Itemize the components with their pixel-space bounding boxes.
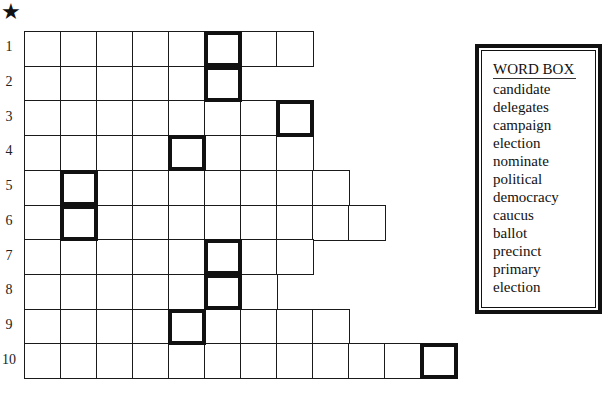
letter-cell[interactable] (24, 205, 62, 241)
word-item: democracy (493, 188, 595, 206)
highlighted-letter-cell[interactable] (60, 170, 98, 206)
letter-cell[interactable] (60, 31, 98, 67)
letter-cell[interactable] (204, 170, 242, 206)
letter-cell[interactable] (276, 239, 314, 275)
letter-cell[interactable] (132, 66, 170, 102)
letter-cell[interactable] (168, 100, 206, 136)
letter-cell[interactable] (384, 343, 422, 379)
highlighted-letter-cell[interactable] (204, 31, 242, 67)
letter-cell[interactable] (24, 66, 62, 102)
row-number: 8 (0, 282, 18, 298)
highlighted-letter-cell[interactable] (420, 343, 458, 379)
letter-cell[interactable] (132, 343, 170, 379)
letter-cell[interactable] (60, 343, 98, 379)
word-item: delegates (493, 98, 595, 116)
letter-cell[interactable] (168, 170, 206, 206)
letter-cell[interactable] (168, 274, 206, 310)
word-box-inner: WORD BOX candidate delegates campaign el… (481, 50, 596, 308)
highlighted-letter-cell[interactable] (204, 239, 242, 275)
letter-cell[interactable] (24, 170, 62, 206)
letter-cell[interactable] (60, 135, 98, 171)
letter-cell[interactable] (96, 343, 134, 379)
letter-cell[interactable] (168, 31, 206, 67)
letter-cell[interactable] (168, 66, 206, 102)
letter-cell[interactable] (96, 170, 134, 206)
letter-cell[interactable] (204, 100, 242, 136)
letter-cell[interactable] (276, 205, 314, 241)
letter-cell[interactable] (24, 135, 62, 171)
letter-cell[interactable] (348, 205, 386, 241)
letter-cell[interactable] (60, 100, 98, 136)
letter-cell[interactable] (96, 309, 134, 345)
letter-cell[interactable] (132, 135, 170, 171)
highlighted-letter-cell[interactable] (276, 100, 314, 136)
letter-cell[interactable] (132, 274, 170, 310)
letter-cell[interactable] (276, 170, 314, 206)
highlighted-letter-cell[interactable] (204, 274, 242, 310)
letter-cell[interactable] (24, 31, 62, 67)
word-item: caucus (493, 206, 595, 224)
letter-cell[interactable] (96, 66, 134, 102)
letter-cell[interactable] (60, 309, 98, 345)
letter-cell[interactable] (24, 100, 62, 136)
letter-cell[interactable] (276, 31, 314, 67)
letter-cell[interactable] (312, 170, 350, 206)
letter-cell[interactable] (312, 309, 350, 345)
row-number: 5 (0, 178, 18, 194)
letter-cell[interactable] (240, 343, 278, 379)
letter-cell[interactable] (204, 205, 242, 241)
letter-cell[interactable] (240, 170, 278, 206)
letter-cell[interactable] (132, 205, 170, 241)
row-number: 7 (0, 248, 18, 264)
letter-cell[interactable] (132, 239, 170, 275)
highlighted-letter-cell[interactable] (168, 309, 206, 345)
highlighted-letter-cell[interactable] (60, 205, 98, 241)
letter-cell[interactable] (240, 135, 278, 171)
letter-cell[interactable] (96, 31, 134, 67)
letter-cell[interactable] (168, 343, 206, 379)
letter-cell[interactable] (276, 135, 314, 171)
letter-cell[interactable] (276, 309, 314, 345)
word-item: precinct (493, 242, 595, 260)
letter-cell[interactable] (132, 31, 170, 67)
letter-cell[interactable] (240, 239, 278, 275)
letter-cell[interactable] (240, 100, 278, 136)
letter-cell[interactable] (24, 274, 62, 310)
word-item: election (493, 278, 595, 296)
letter-cell[interactable] (96, 274, 134, 310)
letter-cell[interactable] (312, 205, 350, 241)
row-number: 1 (0, 39, 18, 55)
letter-cell[interactable] (96, 239, 134, 275)
letter-cell[interactable] (60, 239, 98, 275)
letter-cell[interactable] (204, 309, 242, 345)
letter-cell[interactable] (240, 274, 278, 310)
word-box: WORD BOX candidate delegates campaign el… (475, 44, 602, 314)
letter-cell[interactable] (168, 239, 206, 275)
highlighted-letter-cell[interactable] (204, 66, 242, 102)
letter-cell[interactable] (132, 100, 170, 136)
letter-cell[interactable] (132, 170, 170, 206)
letter-cell[interactable] (60, 274, 98, 310)
letter-cell[interactable] (348, 343, 386, 379)
letter-cell[interactable] (24, 343, 62, 379)
row-number: 10 (0, 352, 18, 368)
row-number: 3 (0, 109, 18, 125)
letter-cell[interactable] (168, 205, 206, 241)
letter-cell[interactable] (276, 343, 314, 379)
letter-cell[interactable] (96, 100, 134, 136)
letter-cell[interactable] (96, 135, 134, 171)
letter-cell[interactable] (240, 205, 278, 241)
letter-cell[interactable] (204, 343, 242, 379)
letter-cell[interactable] (312, 343, 350, 379)
letter-cell[interactable] (96, 205, 134, 241)
row-number: 9 (0, 317, 18, 333)
letter-cell[interactable] (60, 66, 98, 102)
letter-cell[interactable] (204, 135, 242, 171)
letter-cell[interactable] (24, 239, 62, 275)
letter-cell[interactable] (240, 31, 278, 67)
letter-cell[interactable] (132, 309, 170, 345)
letter-cell[interactable] (24, 309, 62, 345)
letter-cell[interactable] (240, 309, 278, 345)
word-item: campaign (493, 116, 595, 134)
highlighted-letter-cell[interactable] (168, 135, 206, 171)
